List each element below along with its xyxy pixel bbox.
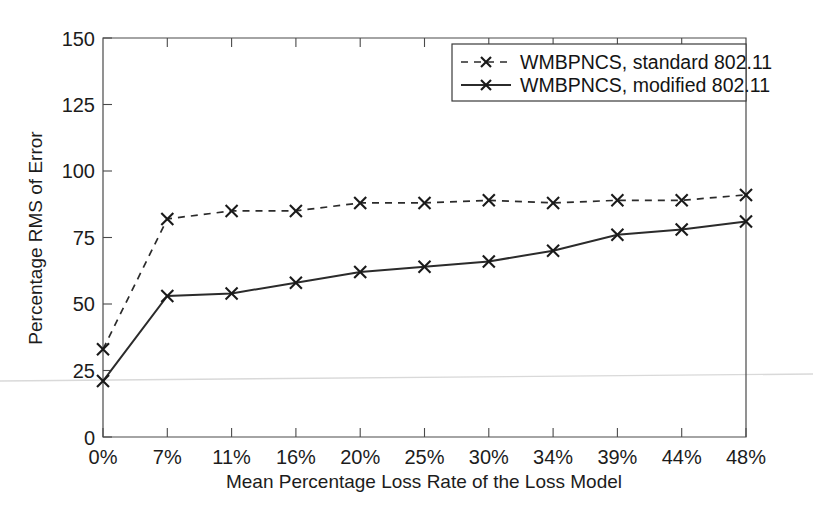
x-tick-label: 44% xyxy=(662,446,702,468)
x-tick-label: 11% xyxy=(212,446,251,468)
series-modified-line xyxy=(103,222,746,382)
legend-label-modified: WMBPNCS, modified 802.11 xyxy=(520,74,770,96)
chart-legend[interactable]: WMBPNCS, standard 802.11 WMBPNCS, modifi… xyxy=(452,44,772,101)
y-tick-label: 75 xyxy=(73,227,95,249)
series-modified-markers xyxy=(97,216,752,388)
chart-figure: 0 25 50 75 100 125 150 xyxy=(0,0,813,510)
series-standard-markers xyxy=(97,189,752,355)
x-axis-tick-labels: 0% 7% 11% 16% 20% 25% 30% 34% 39% 44% 48… xyxy=(89,446,767,468)
y-axis-tick-labels: 0 25 50 75 100 125 150 xyxy=(62,28,95,449)
y-tick-label: 150 xyxy=(62,28,95,50)
x-tick-label: 0% xyxy=(89,446,118,468)
x-tick-label: 48% xyxy=(726,446,766,468)
chart-svg: 0 25 50 75 100 125 150 xyxy=(0,0,813,510)
series-standard-line xyxy=(103,195,746,349)
x-tick-label: 25% xyxy=(404,446,444,468)
legend-label-standard: WMBPNCS, standard 802.11 xyxy=(520,51,772,73)
y-tick-label: 25 xyxy=(73,360,95,382)
x-tick-label: 30% xyxy=(469,446,509,468)
scan-artifact-line xyxy=(0,374,813,381)
x-axis-ticks xyxy=(103,428,746,437)
y-tick-label: 100 xyxy=(62,160,95,182)
series-modified-802-11 xyxy=(97,216,752,388)
x-tick-label: 34% xyxy=(533,446,573,468)
series-standard-802-11 xyxy=(97,189,752,355)
y-tick-label: 50 xyxy=(73,293,95,315)
x-tick-label: 7% xyxy=(153,446,182,468)
x-tick-label: 16% xyxy=(276,446,316,468)
y-axis-title: Percentage RMS of Error xyxy=(25,131,46,345)
x-axis-title: Mean Percentage Loss Rate of the Loss Mo… xyxy=(226,471,622,492)
y-tick-label: 125 xyxy=(62,94,95,116)
x-tick-label: 20% xyxy=(340,446,380,468)
x-tick-label: 39% xyxy=(597,446,637,468)
